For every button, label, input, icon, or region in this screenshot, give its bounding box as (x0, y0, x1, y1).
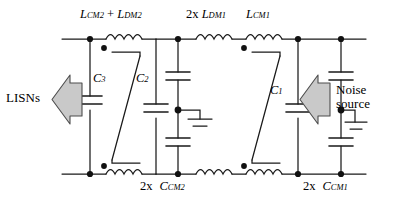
node-top-ccm1 (338, 36, 344, 42)
label-noise-source-line1: Noise (336, 83, 370, 97)
node-top-c1 (295, 36, 301, 42)
inductor-bottom-left-winding (106, 170, 142, 175)
node-bottom-c1 (295, 171, 301, 177)
noise-source-arrow-icon (300, 75, 330, 124)
polarity-dot-cm2-bottom (101, 163, 107, 169)
label-cap-ccm2: 2xCCM2 (140, 180, 185, 193)
core-cm1-top-bracket (252, 52, 280, 56)
label-cap-ccm1: 2xCCM1 (303, 180, 348, 193)
label-noise-source: Noise source (336, 83, 370, 111)
core-cm1-slant (252, 56, 280, 160)
label-cap-c3: C3 (93, 72, 106, 85)
node-bottom-ccm2 (175, 171, 181, 177)
label-noise-source-line2: source (336, 97, 370, 111)
lisns-arrow-icon (52, 75, 82, 124)
inductor-top-right-winding (246, 35, 282, 40)
label-cap-c1: C1 (270, 84, 283, 97)
inductor-top-left-winding (106, 35, 142, 40)
label-inductor-top-right: LCM1 (246, 8, 270, 21)
polarity-dot-cm1-top (241, 45, 247, 51)
node-top-c3 (87, 36, 93, 42)
node-top-ccm2 (175, 36, 181, 42)
polarity-dot-cm2-top (101, 45, 107, 51)
core-cm2-bottom-bracket (112, 160, 140, 163)
inductor-bottom-right-winding (246, 170, 282, 175)
core-cm2-top-bracket (112, 52, 140, 56)
core-cm1-bottom-bracket (252, 160, 280, 163)
label-inductor-top-left: LCM2 + LDM2 (80, 8, 142, 21)
wire-ground-left-stub (178, 110, 200, 119)
node-bottom-c3 (87, 171, 93, 177)
circuit-diagram-figure: LCM2 + LDM2 2x LDM1 LCM1 C3 C2 C1 2xCCM2… (0, 0, 396, 206)
node-bottom-ccm1 (338, 171, 344, 177)
node-ground-left (175, 107, 182, 114)
polarity-dot-cm1-bottom (241, 163, 247, 169)
label-cap-c2: C2 (136, 72, 149, 85)
label-inductor-top-mid: 2x LDM1 (186, 8, 226, 21)
inductor-bottom-mid-winding (196, 170, 232, 175)
inductor-top-mid-winding (196, 35, 232, 40)
label-lisns: LISNs (6, 91, 40, 105)
